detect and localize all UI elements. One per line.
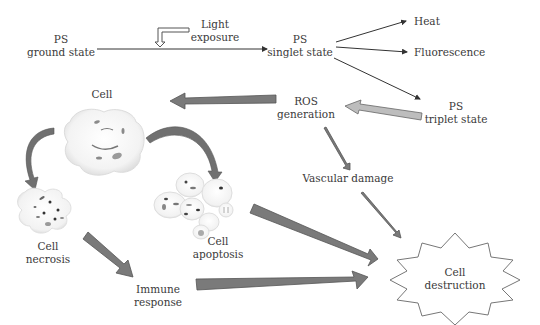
cell-to-necrosis-curved-arrow-icon — [25, 128, 54, 190]
ps-triplet-line1: PS — [425, 100, 488, 113]
node-ps-singlet-state: PS singlet state — [267, 33, 333, 59]
heat-label: Heat — [414, 15, 440, 28]
apoptotic-cells-icon — [154, 173, 233, 239]
light-line2: exposure — [191, 31, 240, 44]
cell-illustration-icon — [64, 109, 144, 175]
necrotic-cell-icon — [18, 188, 71, 233]
node-fluorescence: Fluorescence — [414, 46, 485, 59]
destruction-line2: destruction — [425, 279, 486, 292]
destruction-line1: Cell — [425, 266, 486, 279]
light-line1: Light — [191, 18, 240, 31]
node-light-exposure: Light exposure — [191, 18, 240, 44]
immune-to-destruction-arrow-icon — [196, 271, 368, 290]
apoptosis-line1: Cell — [193, 235, 244, 248]
apoptosis-line2: apoptosis — [193, 248, 244, 261]
pdt-diagram: PS ground state Light exposure PS single… — [0, 0, 540, 325]
node-cell-destruction: Cell destruction — [425, 266, 486, 292]
vascular-label: Vascular damage — [302, 172, 393, 185]
necrosis-to-immune-arrow-icon — [83, 232, 133, 277]
node-cell-necrosis: Cell necrosis — [26, 240, 70, 266]
node-ros-generation: ROS generation — [277, 95, 335, 121]
necrosis-line1: Cell — [26, 240, 70, 253]
triplet-to-ros-arrow-icon — [345, 100, 422, 120]
vascular-to-destruction-arrow-icon — [361, 192, 401, 238]
apoptosis-to-destruction-arrow-icon — [250, 204, 378, 266]
light-exposure-arrow-icon — [155, 28, 189, 47]
ros-line2: generation — [277, 108, 335, 121]
ps-ground-line2: ground state — [27, 46, 95, 59]
node-vascular-damage: Vascular damage — [302, 172, 393, 185]
ros-line1: ROS — [277, 95, 335, 108]
node-immune-response: Immune response — [134, 283, 182, 309]
node-cell: Cell — [92, 88, 113, 101]
ps-triplet-line2: triplet state — [425, 113, 488, 126]
node-heat: Heat — [414, 15, 440, 28]
fluorescence-label: Fluorescence — [414, 46, 485, 59]
necrosis-line2: necrosis — [26, 253, 70, 266]
ps-ground-line1: PS — [27, 33, 95, 46]
ros-to-vascular-arrow-icon — [324, 127, 350, 170]
cell-label: Cell — [92, 88, 113, 101]
node-ps-ground-state: PS ground state — [27, 33, 95, 59]
ros-to-cell-arrow-icon — [170, 93, 276, 109]
immune-line2: response — [134, 296, 182, 309]
immune-line1: Immune — [134, 283, 182, 296]
ps-singlet-line2: singlet state — [267, 46, 333, 59]
node-ps-triplet-state: PS triplet state — [425, 100, 488, 126]
node-cell-apoptosis: Cell apoptosis — [193, 235, 244, 261]
ps-singlet-line1: PS — [267, 33, 333, 46]
edges-singlet-outputs — [334, 21, 420, 99]
